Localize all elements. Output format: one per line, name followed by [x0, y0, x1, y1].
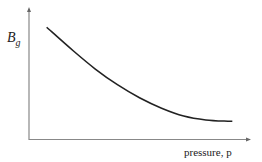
y-axis-label: Bg — [7, 30, 21, 48]
y-axis-arrow — [27, 7, 31, 12]
x-axis-arrow — [246, 138, 251, 142]
series-line — [47, 27, 233, 121]
y-axis-label-subscript: g — [16, 37, 21, 48]
chart: Bg pressure, p — [0, 0, 262, 162]
x-axis-label: pressure, p — [184, 146, 232, 158]
